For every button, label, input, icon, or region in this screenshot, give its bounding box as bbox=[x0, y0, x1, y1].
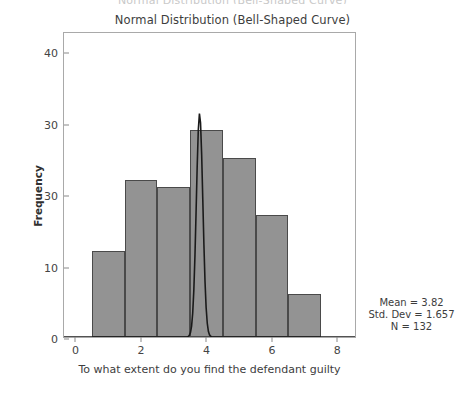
x-axis-tick-label: 2 bbox=[137, 344, 144, 357]
y-axis-tick-mark bbox=[64, 124, 69, 125]
x-axis-tick: 0 bbox=[72, 337, 79, 357]
y-axis-tick-label: 10 bbox=[44, 261, 64, 274]
y-axis-tick: 0 bbox=[51, 333, 64, 346]
clipped-header-text: Normal Distribution (Bell-Shaped Curve) bbox=[0, 0, 465, 4]
histogram-bar bbox=[256, 215, 289, 337]
x-axis-tick: 4 bbox=[203, 337, 210, 357]
stat-std-dev: Std. Dev = 1.657 bbox=[360, 309, 463, 321]
y-axis-title: Frequency bbox=[32, 165, 44, 226]
histogram-bar bbox=[92, 251, 125, 337]
stat-n: N = 132 bbox=[360, 321, 463, 333]
plot-inner bbox=[64, 33, 355, 337]
y-axis-tick-label: 30 bbox=[44, 190, 64, 203]
histogram-bar bbox=[190, 130, 223, 337]
chart-title: Normal Distribution (Bell-Shaped Curve) bbox=[0, 13, 465, 27]
histogram-figure: Normal Distribution (Bell-Shaped Curve) … bbox=[0, 0, 465, 393]
statistics-annotation: Mean = 3.82 Std. Dev = 1.657 N = 132 bbox=[360, 297, 463, 334]
y-axis-tick: 40 bbox=[44, 47, 64, 60]
x-axis-tick-mark bbox=[337, 337, 338, 342]
y-axis-tick-label: 0 bbox=[51, 333, 64, 346]
y-axis-tick-mark bbox=[64, 196, 69, 197]
y-axis-tick: 10 bbox=[44, 261, 64, 274]
x-axis-tick-mark bbox=[75, 337, 76, 342]
x-axis-tick-mark bbox=[271, 337, 272, 342]
x-axis-tick-label: 8 bbox=[334, 344, 341, 357]
x-axis-tick-label: 4 bbox=[203, 344, 210, 357]
x-axis-tick: 2 bbox=[137, 337, 144, 357]
x-axis-tick-label: 6 bbox=[268, 344, 275, 357]
y-axis-tick-mark bbox=[64, 53, 69, 54]
histogram-bar bbox=[223, 158, 256, 337]
histogram-bar bbox=[288, 294, 321, 337]
histogram-bar bbox=[125, 180, 158, 337]
x-axis-tick-mark bbox=[140, 337, 141, 342]
histogram-bar bbox=[157, 187, 190, 337]
plot-area: 010303040 02468 bbox=[63, 32, 356, 338]
y-axis-tick-mark bbox=[64, 339, 69, 340]
y-axis-tick-label: 30 bbox=[44, 118, 64, 131]
y-axis-tick: 30 bbox=[44, 190, 64, 203]
y-axis-tick-mark bbox=[64, 267, 69, 268]
x-axis-tick: 8 bbox=[334, 337, 341, 357]
x-axis-tick-label: 0 bbox=[72, 344, 79, 357]
y-axis-tick-label: 40 bbox=[44, 47, 64, 60]
x-axis-title: To what extent do you find the defendant… bbox=[63, 363, 356, 376]
stat-mean: Mean = 3.82 bbox=[360, 297, 463, 309]
x-axis-tick: 6 bbox=[268, 337, 275, 357]
y-axis-tick: 30 bbox=[44, 118, 64, 131]
x-axis-tick-mark bbox=[206, 337, 207, 342]
